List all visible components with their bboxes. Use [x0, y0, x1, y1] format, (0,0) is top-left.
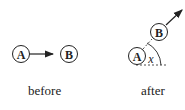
- node-b-label: B: [65, 48, 73, 62]
- arrow-b-direction: [166, 10, 182, 25]
- before-caption: before: [28, 83, 61, 99]
- node-a-label: A: [133, 50, 142, 64]
- angle-label: x: [147, 52, 154, 66]
- node-a-label: A: [17, 48, 26, 62]
- after-caption: after: [141, 83, 165, 99]
- after-diagram: A x B: [129, 10, 183, 66]
- a-to-b-dashed: [143, 39, 152, 49]
- before-diagram: A B: [13, 46, 78, 63]
- node-b-label: B: [155, 26, 163, 40]
